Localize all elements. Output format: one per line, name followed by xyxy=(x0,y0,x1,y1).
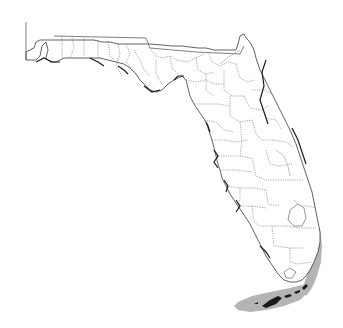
range-florida-keys xyxy=(234,284,310,312)
florida-outline xyxy=(26,34,320,282)
map-canvas xyxy=(0,0,343,328)
florida-range-map xyxy=(0,0,343,328)
